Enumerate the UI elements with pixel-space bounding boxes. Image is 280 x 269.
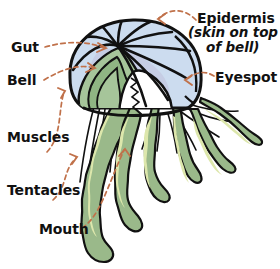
arrowhead-muscles [58, 88, 65, 98]
arrow-gut [45, 43, 104, 48]
label-mouth: Mouth [39, 222, 89, 236]
label-epidermis-note-line2: of bell) [206, 41, 259, 55]
arrow-bell [44, 67, 94, 81]
arrowhead-tentacles [70, 154, 77, 164]
label-bell: Bell [7, 73, 36, 87]
label-muscles: Muscles [7, 130, 69, 144]
arrowhead-mouth [119, 149, 130, 156]
label-eyespot: Eyespot [215, 70, 277, 84]
arrowhead-epidermis [158, 14, 165, 24]
label-epidermis-note-line1: (skin on top [188, 26, 278, 40]
label-tentacles: Tentacles [7, 183, 80, 197]
label-gut: Gut [11, 40, 39, 54]
jellyfish-diagram: Gut Bell Muscles Tentacles Mouth Epiderm… [0, 0, 280, 269]
arrow-mouth [82, 150, 124, 228]
arrowhead-eyespot [185, 75, 192, 85]
